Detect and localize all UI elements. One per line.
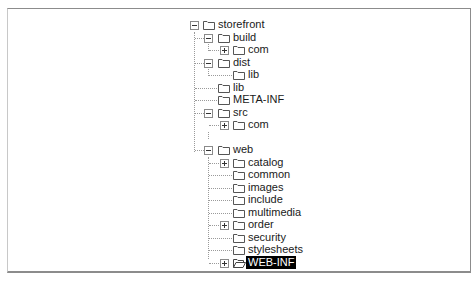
folder-icon — [233, 158, 245, 168]
folder-open-icon — [233, 258, 245, 268]
connector-h — [209, 225, 219, 226]
tree-node-label[interactable]: META-INF — [231, 93, 286, 106]
folder-icon — [218, 33, 230, 43]
tree-node-label[interactable]: storefront — [216, 18, 266, 31]
folder-icon — [203, 20, 215, 30]
tree-row-src[interactable]: src — [0, 107, 476, 120]
tree-row-common[interactable]: common — [0, 169, 476, 182]
directory-tree[interactable]: storefront build com dist lib lib META-I… — [0, 0, 476, 281]
folder-icon — [233, 170, 245, 180]
tree-node-label[interactable]: security — [246, 231, 288, 244]
tree-node-label[interactable]: include — [246, 193, 285, 206]
tree-row-web[interactable]: web — [0, 144, 476, 157]
tree-row-security[interactable]: security — [0, 232, 476, 245]
connector-h — [209, 213, 232, 214]
tree-row-images[interactable]: images — [0, 182, 476, 195]
folder-icon — [233, 220, 245, 230]
tree-node-label[interactable]: src — [231, 106, 250, 119]
tree-row-include[interactable]: include — [0, 194, 476, 207]
tree-row-stylesheets[interactable]: stylesheets — [0, 244, 476, 257]
connector-h — [209, 163, 219, 164]
connector-h — [209, 250, 232, 251]
tree-row-src-com[interactable]: com — [0, 119, 476, 132]
folder-icon — [218, 83, 230, 93]
connector-h — [209, 263, 219, 264]
connector-h — [195, 100, 217, 101]
folder-icon — [233, 208, 245, 218]
tree-node-label[interactable]: build — [231, 31, 258, 44]
connector-h — [209, 125, 219, 126]
collapse-icon[interactable] — [204, 34, 213, 43]
expand-icon[interactable] — [220, 46, 229, 55]
tree-row-dist[interactable]: dist — [0, 57, 476, 70]
folder-icon — [233, 45, 245, 55]
tree-node-label[interactable]: order — [246, 218, 276, 231]
tree-node-label[interactable]: dist — [231, 56, 252, 69]
connector-h — [209, 50, 219, 51]
expand-icon[interactable] — [220, 221, 229, 230]
connector-src — [208, 132, 209, 139]
collapse-icon[interactable] — [190, 21, 199, 30]
folder-icon — [233, 120, 245, 130]
tree-node-label[interactable]: images — [246, 181, 285, 194]
tree-row-build[interactable]: build — [0, 32, 476, 45]
tree-node-label[interactable]: lib — [246, 68, 261, 81]
tree-node-label[interactable]: stylesheets — [246, 243, 305, 256]
tree-row-catalog[interactable]: catalog — [0, 157, 476, 170]
tree-node-label-selected[interactable]: WEB-INF — [246, 256, 296, 269]
tree-row-web-inf[interactable]: WEB-INF — [0, 257, 476, 270]
folder-icon — [218, 145, 230, 155]
connector-h — [195, 88, 217, 89]
tree-node-label[interactable]: com — [246, 43, 271, 56]
connector-h — [195, 113, 204, 114]
folder-icon — [218, 58, 230, 68]
expand-icon[interactable] — [220, 121, 229, 130]
collapse-icon[interactable] — [204, 59, 213, 68]
connector-h — [209, 75, 232, 76]
expand-icon[interactable] — [220, 259, 229, 268]
folder-icon — [233, 195, 245, 205]
tree-node-label[interactable]: catalog — [246, 156, 285, 169]
folder-icon — [218, 95, 230, 105]
tree-row-multimedia[interactable]: multimedia — [0, 207, 476, 220]
tree-node-label[interactable]: multimedia — [246, 206, 303, 219]
folder-icon — [233, 70, 245, 80]
connector-h — [209, 175, 232, 176]
connector-h — [195, 38, 204, 39]
connector-h — [209, 200, 232, 201]
tree-row-order[interactable]: order — [0, 219, 476, 232]
folder-icon — [218, 108, 230, 118]
tree-node-label[interactable]: lib — [231, 81, 246, 94]
collapse-icon[interactable] — [204, 109, 213, 118]
folder-icon — [233, 183, 245, 193]
folder-icon — [233, 233, 245, 243]
collapse-icon[interactable] — [204, 146, 213, 155]
expand-icon[interactable] — [220, 159, 229, 168]
connector-h — [209, 238, 232, 239]
tree-node-label[interactable]: com — [246, 118, 271, 131]
connector-h — [195, 150, 204, 151]
connector-h — [195, 63, 204, 64]
tree-node-label[interactable]: web — [231, 143, 255, 156]
connector-h — [209, 188, 232, 189]
folder-icon — [233, 245, 245, 255]
tree-node-label[interactable]: common — [246, 168, 292, 181]
